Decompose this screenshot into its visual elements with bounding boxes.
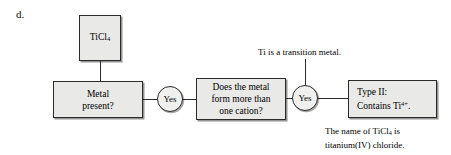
connector-yes1-to-cation: [183, 99, 196, 100]
answer-yes-1-label: Yes: [163, 94, 176, 104]
result-box-label: Type II:Contains Ti4+.: [349, 86, 414, 112]
answer-yes-2-label: Yes: [298, 93, 311, 103]
decision-metal-present: Metal present?: [53, 81, 143, 118]
answer-yes-2: Yes: [292, 85, 318, 111]
answer-yes-1: Yes: [157, 86, 183, 112]
flowchart-figure: d. TiCl4 Metal present? Yes Does the met…: [0, 0, 451, 155]
decision-more-than-one-cation: Does the metal form more than one cation…: [196, 78, 286, 120]
connector-note-to-yes2: [305, 59, 306, 85]
result-box: Type II:Contains Ti4+.: [348, 80, 437, 118]
decision-more-than-one-cation-label: Does the metal form more than one cation…: [207, 81, 274, 117]
connector-metal-to-yes1: [143, 99, 157, 100]
annotation-compound-name: The name of TiCl4 istitanium(IV) chlorid…: [325, 126, 404, 151]
annotation-transition-metal: Ti is a transition metal.: [258, 47, 341, 59]
item-letter: d.: [16, 8, 24, 20]
formula-box: TiCl4: [79, 15, 121, 61]
connector-formula-to-metal: [100, 61, 101, 81]
decision-metal-present-label: Metal present?: [78, 88, 118, 112]
formula-box-label: TiCl4: [86, 31, 114, 45]
connector-yes2-to-result: [318, 98, 348, 99]
